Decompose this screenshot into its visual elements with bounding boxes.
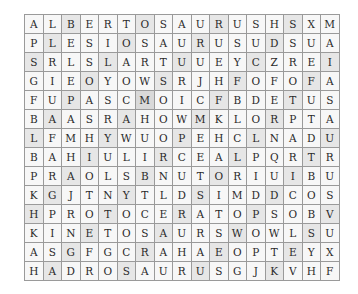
grid-cell[interactable]: H <box>136 110 155 129</box>
grid-cell[interactable]: B <box>25 148 44 167</box>
grid-cell[interactable]: T <box>303 148 322 167</box>
grid-cell[interactable]: G <box>62 243 81 262</box>
grid-cell[interactable]: B <box>25 110 44 129</box>
grid-cell[interactable]: E <box>192 129 211 148</box>
grid-cell[interactable]: A <box>210 148 229 167</box>
grid-cell[interactable]: A <box>81 91 100 110</box>
grid-cell[interactable]: U <box>192 262 211 281</box>
grid-cell[interactable]: B <box>303 205 322 224</box>
grid-cell[interactable]: A <box>25 15 44 34</box>
grid-cell[interactable]: K <box>210 110 229 129</box>
grid-cell[interactable]: D <box>266 34 285 53</box>
grid-cell[interactable]: U <box>210 34 229 53</box>
grid-cell[interactable]: C <box>118 91 137 110</box>
grid-cell[interactable]: N <box>155 167 174 186</box>
grid-cell[interactable]: L <box>284 224 303 243</box>
grid-cell[interactable]: U <box>247 34 266 53</box>
grid-cell[interactable]: T <box>303 110 322 129</box>
grid-cell[interactable]: K <box>25 186 44 205</box>
grid-cell[interactable]: F <box>25 91 44 110</box>
grid-cell[interactable]: G <box>99 243 118 262</box>
grid-cell[interactable]: O <box>284 72 303 91</box>
grid-cell[interactable]: H <box>210 129 229 148</box>
grid-cell[interactable]: L <box>118 148 137 167</box>
grid-cell[interactable]: H <box>303 262 322 281</box>
grid-cell[interactable]: Z <box>266 53 285 72</box>
grid-cell[interactable]: I <box>136 148 155 167</box>
grid-cell[interactable]: S <box>247 15 266 34</box>
grid-cell[interactable]: M <box>136 91 155 110</box>
grid-cell[interactable]: B <box>229 91 248 110</box>
grid-cell[interactable]: T <box>99 224 118 243</box>
grid-cell[interactable]: A <box>44 110 63 129</box>
grid-cell[interactable]: O <box>99 262 118 281</box>
grid-cell[interactable]: S <box>321 186 340 205</box>
grid-cell[interactable]: O <box>118 72 137 91</box>
grid-cell[interactable]: S <box>210 262 229 281</box>
grid-cell[interactable]: I <box>44 224 63 243</box>
grid-cell[interactable]: A <box>44 148 63 167</box>
grid-cell[interactable]: E <box>155 205 174 224</box>
grid-cell[interactable]: S <box>155 15 174 34</box>
grid-cell[interactable]: O <box>284 205 303 224</box>
grid-cell[interactable]: R <box>155 148 174 167</box>
grid-cell[interactable]: T <box>155 53 174 72</box>
grid-cell[interactable]: U <box>303 91 322 110</box>
grid-cell[interactable]: R <box>229 167 248 186</box>
grid-cell[interactable]: A <box>284 129 303 148</box>
grid-cell[interactable]: V <box>284 262 303 281</box>
grid-cell[interactable]: A <box>155 34 174 53</box>
grid-cell[interactable]: Q <box>266 148 285 167</box>
grid-cell[interactable]: C <box>136 205 155 224</box>
grid-cell[interactable]: S <box>136 224 155 243</box>
grid-cell[interactable]: U <box>173 53 192 72</box>
grid-cell[interactable]: A <box>62 110 81 129</box>
grid-cell[interactable]: W <box>173 110 192 129</box>
grid-cell[interactable]: P <box>62 91 81 110</box>
grid-cell[interactable]: I <box>247 167 266 186</box>
grid-cell[interactable]: B <box>303 167 322 186</box>
grid-cell[interactable]: E <box>210 53 229 72</box>
grid-cell[interactable]: S <box>210 224 229 243</box>
grid-cell[interactable]: R <box>284 53 303 72</box>
grid-cell[interactable]: K <box>25 224 44 243</box>
grid-cell[interactable]: U <box>173 224 192 243</box>
grid-cell[interactable]: A <box>192 243 211 262</box>
grid-cell[interactable]: O <box>210 167 229 186</box>
grid-cell[interactable]: T <box>192 167 211 186</box>
grid-cell[interactable]: S <box>284 15 303 34</box>
grid-cell[interactable]: R <box>62 205 81 224</box>
grid-cell[interactable]: P <box>247 243 266 262</box>
grid-cell[interactable]: F <box>229 72 248 91</box>
grid-cell[interactable]: A <box>321 110 340 129</box>
grid-cell[interactable]: H <box>173 243 192 262</box>
grid-cell[interactable]: D <box>62 262 81 281</box>
grid-cell[interactable]: I <box>81 148 100 167</box>
grid-cell[interactable]: E <box>303 53 322 72</box>
grid-cell[interactable]: Y <box>99 129 118 148</box>
grid-cell[interactable]: E <box>210 243 229 262</box>
grid-cell[interactable]: O <box>247 224 266 243</box>
grid-cell[interactable]: F <box>321 262 340 281</box>
grid-cell[interactable]: U <box>321 129 340 148</box>
grid-cell[interactable]: D <box>247 186 266 205</box>
grid-cell[interactable]: R <box>321 148 340 167</box>
grid-cell[interactable]: A <box>62 167 81 186</box>
grid-cell[interactable]: S <box>321 91 340 110</box>
grid-cell[interactable]: H <box>81 129 100 148</box>
grid-cell[interactable]: E <box>81 224 100 243</box>
grid-cell[interactable]: K <box>266 262 285 281</box>
grid-cell[interactable]: E <box>266 91 285 110</box>
grid-cell[interactable]: A <box>192 205 211 224</box>
grid-cell[interactable]: B <box>62 15 81 34</box>
grid-cell[interactable]: C <box>118 243 137 262</box>
grid-cell[interactable]: E <box>192 148 211 167</box>
grid-cell[interactable]: S <box>284 34 303 53</box>
grid-cell[interactable]: D <box>247 91 266 110</box>
grid-cell[interactable]: U <box>155 262 174 281</box>
grid-cell[interactable]: Y <box>99 72 118 91</box>
grid-cell[interactable]: F <box>210 91 229 110</box>
grid-cell[interactable]: N <box>62 224 81 243</box>
grid-cell[interactable]: T <box>210 205 229 224</box>
grid-cell[interactable]: M <box>192 110 211 129</box>
